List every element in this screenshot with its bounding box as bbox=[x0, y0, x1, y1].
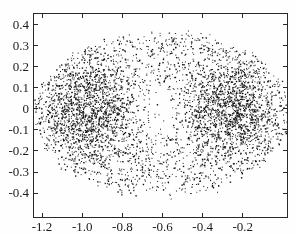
tick-x-top bbox=[242, 14, 243, 18]
tick-y-right bbox=[283, 193, 287, 194]
tick-y-right bbox=[283, 108, 287, 109]
tick-y-left bbox=[34, 193, 38, 194]
tick-y-left bbox=[34, 108, 38, 109]
tick-x-bottom bbox=[82, 213, 83, 217]
fixed-point-marker bbox=[84, 107, 91, 114]
tick-y-right bbox=[283, 172, 287, 173]
y-tick-label: -0.2 bbox=[0, 143, 29, 159]
tick-y-left bbox=[34, 87, 38, 88]
tick-x-top bbox=[122, 14, 123, 18]
tick-y-left bbox=[34, 129, 38, 130]
tick-y-right bbox=[283, 150, 287, 151]
fixed-point-marker bbox=[226, 107, 233, 114]
y-tick-label: 0.2 bbox=[0, 59, 29, 75]
tick-x-bottom bbox=[162, 213, 163, 217]
tick-y-right bbox=[283, 66, 287, 67]
y-tick-label: 0.1 bbox=[0, 80, 29, 96]
y-tick-label: -0.3 bbox=[0, 164, 29, 180]
tick-y-left bbox=[34, 150, 38, 151]
tick-y-right bbox=[283, 24, 287, 25]
x-tick-label: -1.2 bbox=[25, 219, 59, 234]
tick-x-top bbox=[82, 14, 83, 18]
tick-y-right bbox=[283, 87, 287, 88]
scatter-canvas bbox=[34, 14, 287, 217]
x-tick-label: -0.8 bbox=[105, 219, 139, 234]
tick-y-left bbox=[34, 172, 38, 173]
tick-y-right bbox=[283, 45, 287, 46]
tick-y-left bbox=[34, 24, 38, 25]
y-tick-label: 0 bbox=[0, 101, 29, 117]
y-tick-label: -0.1 bbox=[0, 122, 29, 138]
tick-x-bottom bbox=[122, 213, 123, 217]
x-tick-label: -0.6 bbox=[146, 219, 180, 234]
tick-x-top bbox=[202, 14, 203, 18]
y-tick-label: 0.3 bbox=[0, 38, 29, 54]
y-tick-label: -0.4 bbox=[0, 185, 29, 201]
scatter-figure: -1.2-1.0-0.8-0.6-0.4-0.20.40.30.20.10-0.… bbox=[0, 0, 296, 234]
tick-x-bottom bbox=[202, 213, 203, 217]
x-tick-label: -1.0 bbox=[65, 219, 99, 234]
tick-x-top bbox=[42, 14, 43, 18]
y-tick-label: 0.4 bbox=[0, 17, 29, 33]
x-tick-label: -0.2 bbox=[226, 219, 260, 234]
tick-y-left bbox=[34, 45, 38, 46]
tick-x-top bbox=[162, 14, 163, 18]
tick-x-bottom bbox=[242, 213, 243, 217]
plot-area bbox=[33, 13, 288, 218]
x-tick-label: -0.4 bbox=[186, 219, 220, 234]
tick-y-left bbox=[34, 66, 38, 67]
tick-x-bottom bbox=[42, 213, 43, 217]
tick-y-right bbox=[283, 129, 287, 130]
